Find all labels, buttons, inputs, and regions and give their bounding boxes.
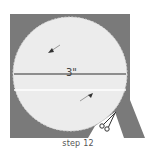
measurement-label: 3" <box>66 67 77 78</box>
step-12-figure: 3" step 12 <box>0 0 156 155</box>
step-caption: step 12 <box>0 139 156 148</box>
diagram-canvas <box>0 0 156 155</box>
